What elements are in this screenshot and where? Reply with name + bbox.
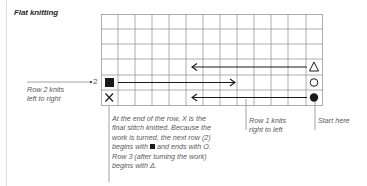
explain-line4b: and ends with O. [157, 142, 211, 151]
explain-line2: final stitch knitted. Because the [112, 123, 242, 132]
circle-filled-icon [310, 93, 318, 101]
knitting-chart-grid [101, 14, 323, 106]
explain-line6: begins with Δ. [112, 161, 242, 170]
row2-line2: left to right [27, 94, 97, 103]
explain-line1: At the end of the row, X is the [112, 114, 242, 123]
explain-line3: work is turned, the next row (2) [112, 133, 242, 142]
triangle-open-icon [310, 62, 319, 71]
row1-line2: right to left [249, 125, 309, 134]
row1-annotation: Row 1 knits right to left [249, 116, 309, 135]
explanation-annotation: At the end of the row, X is the final st… [112, 114, 242, 170]
row1-line1: Row 1 knits [249, 116, 309, 125]
start-here-annotation: Start here [318, 116, 367, 125]
x-cross-icon [106, 94, 114, 102]
explain-line4: begins with and ends with O. [112, 142, 242, 151]
explain-line5: Row 3 (after turning the work) [112, 152, 242, 161]
explain-line4a: begins with [112, 142, 148, 151]
square-filled-icon [150, 144, 155, 149]
row2-annotation: Row 2 knits left to right [27, 85, 97, 104]
row2-line1: Row 2 knits [27, 85, 97, 94]
square-filled-icon [105, 78, 114, 87]
circle-open-icon [310, 79, 318, 87]
